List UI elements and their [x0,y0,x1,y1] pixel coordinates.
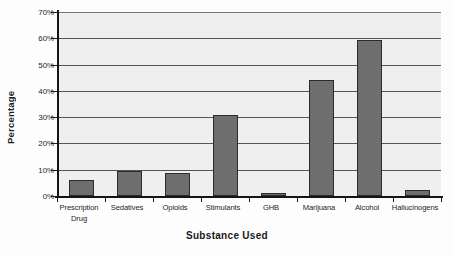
y-axis-tick-label: 0% [24,192,54,201]
y-axis-tick-label: 30% [24,113,54,122]
y-axis-tick-mark [51,170,57,171]
x-axis-title: Substance Used [0,230,454,241]
x-axis-tick-mark [105,196,106,202]
x-axis-tick-label-line: Drug [49,214,109,225]
gridline [57,143,441,144]
y-axis-line [57,10,59,198]
x-axis-tick-label-line: Hallucinogens [385,203,445,214]
x-axis-tick-mark [393,196,394,202]
y-axis-tick-mark [51,143,57,144]
bar [165,173,190,196]
bar [309,80,334,196]
y-axis-tick-label: 60% [24,34,54,43]
y-axis-tick-label: 40% [24,86,54,95]
y-axis-tick-label: 50% [24,60,54,69]
gridline [57,65,441,66]
y-axis-title: Percentage [2,62,18,172]
bar [117,171,142,196]
bar-chart: CHRONIC PAIN AND Percentage 0%10%20%30%4… [0,0,454,255]
y-axis-tick-label: 70% [24,8,54,17]
x-axis-tick-mark [153,196,154,202]
gridline [57,117,441,118]
gridline [57,38,441,39]
gridline [57,12,441,13]
y-axis-tick-mark [51,65,57,66]
x-axis-tick-labels: PrescriptionDrugSedativesOpioidsStimulan… [55,203,445,229]
x-axis-tick-mark [57,196,58,202]
gridline [57,91,441,92]
x-axis-tick-mark [345,196,346,202]
x-axis-tick-mark [249,196,250,202]
y-axis-tick-mark [51,91,57,92]
y-axis-tick-label: 20% [24,139,54,148]
bar [357,40,382,196]
bar [213,115,238,196]
y-axis-tick-label: 10% [24,165,54,174]
x-axis-tick-mark [441,196,442,202]
x-axis-tick-mark [297,196,298,202]
x-axis-tick-mark [201,196,202,202]
bar [69,180,94,196]
plot-background [57,12,441,196]
y-axis-tick-mark [51,117,57,118]
y-axis-tick-mark [51,38,57,39]
x-axis-tick-label: Hallucinogens [385,203,445,214]
gridline [57,170,441,171]
plot-area-wrapper [57,12,441,196]
y-axis-tick-mark [51,12,57,13]
